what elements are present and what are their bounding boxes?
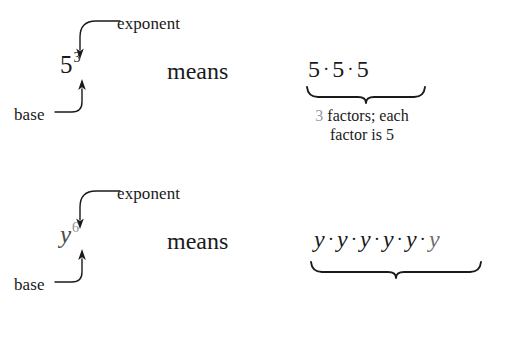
factor: y bbox=[337, 226, 348, 252]
power-expression-y-6: y6 bbox=[60, 222, 78, 247]
factor-value: 5 bbox=[386, 126, 394, 143]
means-word: means bbox=[167, 59, 228, 83]
multiplication-dot-icon: · bbox=[417, 228, 429, 249]
multiplication-dot-icon: · bbox=[371, 228, 383, 249]
factor: y bbox=[406, 226, 417, 252]
multiplication-dot-icon: · bbox=[320, 58, 332, 79]
exponent-diagram: exponent base 53 means 5·5·5 3 factors; … bbox=[0, 0, 506, 340]
expanded-product-y: y·y·y·y·y·y bbox=[314, 227, 440, 253]
factor: y bbox=[314, 226, 325, 252]
exponent-value: 6 bbox=[72, 220, 79, 235]
base-arrow-icon bbox=[52, 78, 98, 118]
means-word: means bbox=[167, 229, 228, 253]
caption-text: factors; each bbox=[323, 107, 408, 124]
base-value: 5 bbox=[60, 51, 73, 78]
caption-line-2: factor is 5 bbox=[286, 125, 438, 144]
multiplication-dot-icon: · bbox=[394, 228, 406, 249]
underbrace-icon bbox=[304, 85, 428, 105]
exponent-label: exponent bbox=[117, 185, 180, 202]
underbrace-icon bbox=[308, 260, 484, 280]
factor: y bbox=[429, 226, 440, 252]
diagram-row-power: exponent base 53 means 5·5·5 3 factors; … bbox=[0, 0, 506, 170]
base-label: base bbox=[14, 106, 45, 123]
power-expression-5-3: 53 bbox=[60, 52, 80, 77]
multiplication-dot-icon: · bbox=[348, 228, 360, 249]
factor: 5 bbox=[332, 56, 344, 82]
caption-text: factor is bbox=[330, 126, 386, 143]
factor: y bbox=[383, 226, 394, 252]
multiplication-dot-icon: · bbox=[325, 228, 337, 249]
factor: 5 bbox=[357, 56, 369, 82]
factor: y bbox=[360, 226, 371, 252]
exponent-value: 3 bbox=[74, 50, 81, 65]
caption-line-1: 3 factors; each bbox=[286, 106, 438, 125]
multiplication-dot-icon: · bbox=[344, 58, 356, 79]
exponent-label: exponent bbox=[117, 15, 180, 32]
base-arrow-icon bbox=[52, 248, 98, 288]
diagram-row-variable: exponent base y6 means y·y·y·y·y·y 6 fac… bbox=[0, 170, 506, 340]
base-label: base bbox=[14, 276, 45, 293]
expanded-product-5: 5·5·5 bbox=[308, 57, 369, 83]
base-value: y bbox=[60, 221, 71, 248]
factor: 5 bbox=[308, 56, 320, 82]
factor-caption: 3 factors; each factor is 5 bbox=[286, 106, 438, 144]
